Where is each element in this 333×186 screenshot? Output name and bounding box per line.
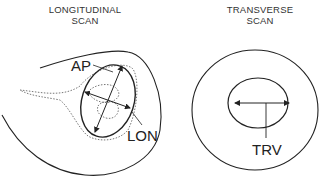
lon-leader xyxy=(132,112,142,125)
lon-label: LON xyxy=(127,127,158,144)
dotted-inner-1 xyxy=(88,85,119,103)
dotted-capsule xyxy=(20,65,137,140)
longitudinal-panel: AP LON xyxy=(2,51,161,175)
scan-diagram: AP LON TRV xyxy=(0,0,333,186)
lon-measure-arrow xyxy=(85,92,130,108)
transverse-panel: TRV xyxy=(192,50,318,170)
ap-label: AP xyxy=(71,57,91,74)
trv-label: TRV xyxy=(252,141,282,158)
ap-leader xyxy=(93,65,113,72)
dotted-inner-2 xyxy=(97,102,118,119)
ap-measure-arrow xyxy=(95,66,122,132)
